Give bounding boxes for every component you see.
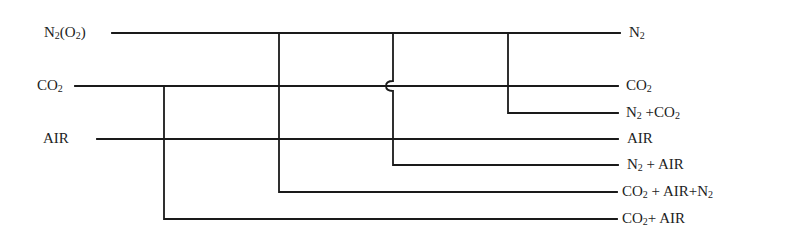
output-label-n2-air: N2 + AIR [627, 157, 684, 172]
output-label-air: AIR [627, 131, 653, 146]
gas-mixing-pipe-diagram [0, 0, 785, 242]
n2-co2-branch-line [508, 33, 618, 113]
input-label-n2-o2: N2(O2) [44, 25, 86, 40]
output-label-co2: CO2 [626, 78, 652, 93]
input-label-air: AIR [43, 131, 69, 146]
input-label-co2: CO2 [37, 78, 63, 93]
output-label-co2-air-n2: CO2 + AIR+N2 [622, 184, 713, 199]
output-label-n2: N2 [629, 25, 645, 40]
output-label-n2-co2: N2 +CO2 [626, 105, 680, 120]
output-label-co2-air: CO2+ AIR [622, 211, 685, 226]
co2-air-branch-line [164, 86, 617, 219]
n2-air-branch-line [386, 33, 618, 165]
